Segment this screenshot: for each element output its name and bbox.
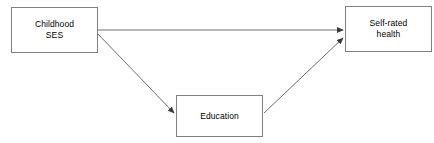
node-childhood-ses-label: Childhood SES bbox=[35, 19, 74, 41]
edge-ses-to-education bbox=[98, 34, 174, 113]
node-education-label: Education bbox=[200, 111, 239, 122]
node-education: Education bbox=[176, 95, 263, 137]
node-childhood-ses: Childhood SES bbox=[11, 7, 98, 53]
node-self-rated-health: Self-rated health bbox=[345, 6, 432, 52]
node-self-rated-health-label: Self-rated health bbox=[370, 18, 408, 40]
diagram-canvas: Childhood SES Self-rated health Educatio… bbox=[0, 0, 434, 143]
edge-education-to-health bbox=[264, 38, 343, 113]
